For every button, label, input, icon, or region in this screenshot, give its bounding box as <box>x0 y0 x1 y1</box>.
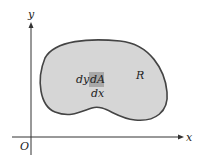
diagram-canvas: y x O R dA dy dx <box>0 0 197 159</box>
dx-label: dx <box>91 87 105 100</box>
x-axis-label: x <box>186 131 193 144</box>
y-axis-label: y <box>27 8 35 21</box>
dy-label: dy <box>76 73 90 86</box>
element-label: dA <box>90 73 105 86</box>
origin-label: O <box>20 140 29 153</box>
x-axis-arrow-icon <box>178 135 184 140</box>
y-axis-arrow-icon <box>29 22 34 28</box>
region-label: R <box>135 69 144 82</box>
